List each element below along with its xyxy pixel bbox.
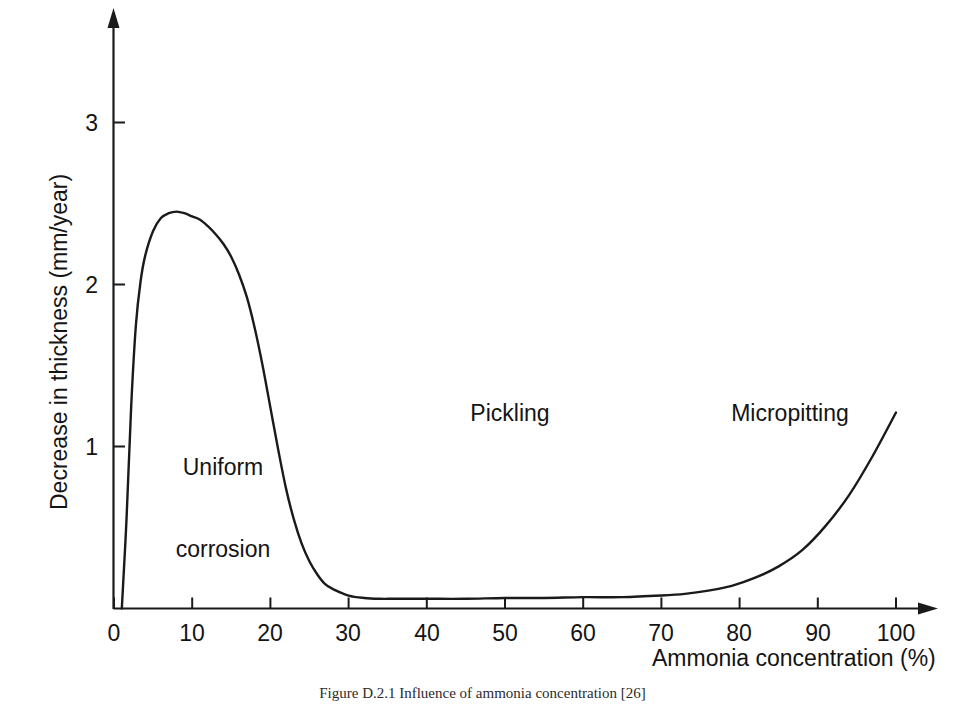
- x-tick-label-20: 20: [235, 620, 305, 647]
- region-label-line-2: corrosion: [148, 536, 298, 563]
- x-tick-label-40: 40: [392, 620, 462, 647]
- x-tick-label-10: 10: [157, 620, 227, 647]
- region-label-pickling: Pickling: [440, 400, 580, 427]
- x-tick-label-60: 60: [548, 620, 618, 647]
- x-axis-title: Ammonia concentration (%): [652, 645, 936, 672]
- y-axis: [108, 8, 120, 609]
- x-tick-label-70: 70: [626, 620, 696, 647]
- chart-plot-area: [0, 0, 965, 704]
- x-tick-label-0: 0: [79, 620, 149, 647]
- x-tick-label-100: 100: [861, 620, 931, 647]
- region-label-line-1: Uniform: [148, 454, 298, 481]
- figure-container: Decrease in thickness (mm/year) Ammonia …: [0, 0, 965, 704]
- region-label-micropitting: Micropitting: [700, 400, 880, 427]
- x-tick-label-90: 90: [783, 620, 853, 647]
- y-tick-label-2: 2: [58, 272, 98, 299]
- x-tick-label-50: 50: [470, 620, 540, 647]
- x-tick-label-80: 80: [704, 620, 774, 647]
- x-tick-label-30: 30: [313, 620, 383, 647]
- region-label-uniform-corrosion: Uniform corrosion: [148, 400, 298, 617]
- y-tick-label-1: 1: [58, 434, 98, 461]
- y-tick-label-3: 3: [58, 110, 98, 137]
- figure-caption: Figure D.2.1 Influence of ammonia concen…: [0, 685, 965, 704]
